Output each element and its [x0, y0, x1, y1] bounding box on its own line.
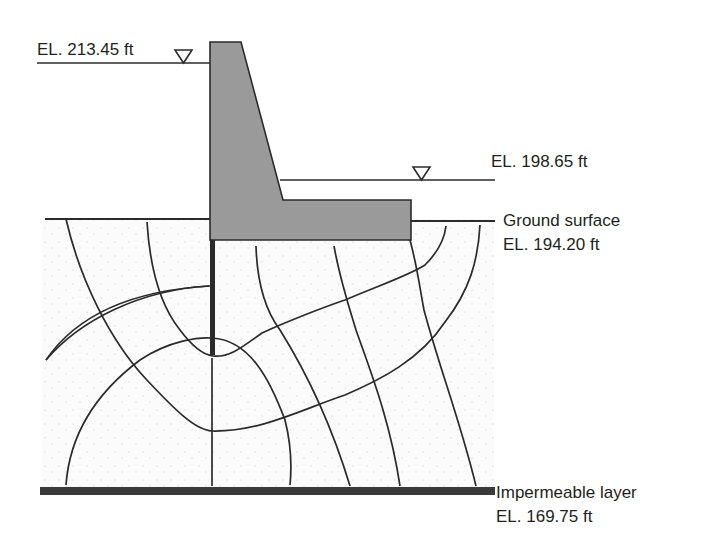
impermeable-layer-label: Impermeable layer	[496, 483, 637, 503]
concrete-dam	[210, 42, 411, 240]
permeable-soil	[42, 219, 494, 487]
tailwater-triangle-icon	[413, 167, 430, 180]
ground-surface-label: Ground surface	[503, 211, 620, 231]
headwater-elevation-label: EL. 213.45 ft	[37, 40, 133, 60]
ground-elevation-label: EL. 194.20 ft	[503, 235, 599, 255]
flow-net-diagram	[0, 0, 707, 552]
impermeable-elevation-label: EL. 169.75 ft	[496, 507, 592, 527]
impermeable-layer	[40, 487, 495, 495]
headwater-triangle-icon	[175, 50, 192, 63]
tailwater-elevation-label: EL. 198.65 ft	[491, 152, 587, 172]
